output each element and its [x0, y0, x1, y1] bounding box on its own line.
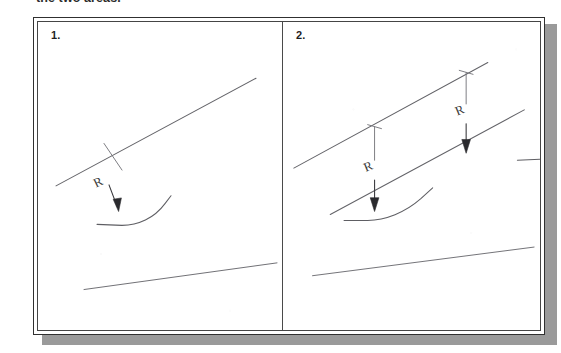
scanned-page: the two areas. 1. [0, 0, 561, 353]
panel-2-fillet-curve-a [344, 188, 433, 221]
panel-2-fillet-curve-b [517, 124, 540, 161]
panel-1-bottom-line [84, 263, 277, 290]
panel-1-main-line [56, 78, 256, 186]
panel-1-drawing: R [38, 22, 282, 330]
clipped-caption: the two areas. [0, 0, 561, 9]
panel-2-lower-line [330, 110, 524, 215]
panel-2-drawing: R R [283, 22, 540, 330]
caption-text: the two areas. [36, 0, 121, 5]
panel-2-radius-label-a: R [362, 158, 376, 174]
panel-2: 2. [283, 22, 540, 330]
panel-1-fillet-curve [97, 196, 171, 226]
panel-1-arrow-head [113, 198, 121, 212]
panel-1-radius-label: R [91, 173, 106, 190]
panel-1-leader-line [104, 143, 122, 170]
panel-1: 1. [38, 22, 282, 330]
panel-2-arrow-head-b [462, 139, 471, 153]
panel-2-radius-label-b: R [453, 102, 467, 118]
panel-2-bottom-line [313, 247, 535, 276]
figure-frame: 1. [33, 17, 545, 335]
panel-2-arrow-head-a [370, 198, 379, 212]
figure-frame-inner-border: 1. [37, 21, 541, 331]
